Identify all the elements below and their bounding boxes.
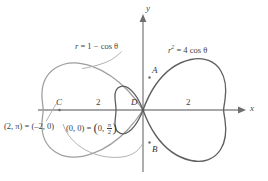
annotation-point-d-cartesian: (0, 0) (66, 123, 84, 133)
leader-line-point-c (46, 104, 56, 122)
y-axis-label: y (146, 4, 150, 13)
x-axis-label: x (250, 104, 254, 113)
axes-group (38, 14, 246, 172)
point-marker-c (58, 109, 61, 112)
figure-canvas (0, 0, 268, 181)
annotation-point-d-angle-fraction: π 2 (107, 122, 112, 137)
point-label-d: D (131, 98, 138, 107)
point-label-c: C (56, 98, 62, 107)
annotation-point-c: (2, π) = (–2, 0) (4, 122, 54, 131)
lemniscate-equation-expression: 4 cos θ (183, 45, 207, 55)
point-label-a: A (152, 66, 158, 75)
point-marker-d (142, 109, 145, 112)
cardioid-equation-relation: = (78, 41, 87, 51)
point-marker-a (148, 76, 150, 78)
annotation-point-d-open-paren: ( (93, 120, 97, 135)
leader-line-cardioid (82, 52, 122, 69)
annotation-point-d-close-paren: ) (113, 120, 117, 135)
measure-label-left: 2 (96, 98, 101, 107)
annotation-point-d: (0, 0) = (0, π 2 ) (66, 122, 117, 137)
point-marker-b (148, 141, 150, 143)
fraction-denominator: 2 (107, 129, 112, 136)
annotation-point-c-equals: = (22, 121, 31, 131)
y-axis-arrowhead (140, 14, 147, 22)
point-label-b: B (152, 145, 158, 154)
cardioid-equation-expression: 1 − cos θ (87, 41, 118, 51)
lemniscate-equation-label: r2 = 4 cos θ (168, 44, 207, 54)
annotation-point-c-polar: (2, π) (4, 121, 22, 131)
lemniscate-equation-relation: = (174, 45, 183, 55)
annotation-point-d-radius: 0, (98, 123, 107, 133)
polar-curves-figure: y x r = 1 − cos θ r2 = 4 cos θ A B C D 2… (0, 0, 268, 181)
annotation-point-c-cartesian: (–2, 0) (32, 121, 55, 131)
measure-label-right: 2 (186, 98, 191, 107)
cardioid-equation-label: r = 1 − cos θ (75, 42, 118, 51)
x-axis-arrowhead (238, 107, 246, 114)
